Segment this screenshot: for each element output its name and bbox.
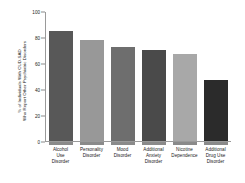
x-axis-tick-mark: [204, 142, 228, 145]
bar-series: [46, 12, 231, 141]
x-axis-tick-mark: [49, 142, 73, 145]
y-axis-tick-label: 20: [35, 114, 40, 119]
y-axis-tick-mark: [41, 12, 45, 13]
x-axis-tick-mark: [111, 142, 135, 145]
y-axis-tick-label: 0: [37, 140, 40, 145]
bar-chart-figure: % of Individuals With CUD-SAD Who Report…: [0, 0, 245, 183]
x-axis-category-label-line: Disorder: [201, 159, 231, 165]
x-axis-category-label-line: Disorder: [46, 159, 76, 165]
x-axis-tick-marks: [45, 142, 231, 146]
x-axis-tick-mark: [142, 142, 166, 145]
x-axis-category-label: PersonalityDisorder: [77, 147, 107, 179]
y-axis-tick-label: 60: [35, 62, 40, 67]
y-axis-tick-mark: [41, 116, 45, 117]
y-axis-tick-label: 40: [35, 88, 40, 93]
x-axis-tick-mark: [173, 142, 197, 145]
x-axis-category-label-line: Personality: [77, 147, 107, 153]
bar: [142, 50, 166, 141]
x-axis-category-label: AlcoholUseDisorder: [46, 147, 76, 179]
bar: [111, 47, 135, 141]
x-axis-category-labels: AlcoholUseDisorderPersonalityDisorderMoo…: [45, 147, 231, 179]
bar: [173, 54, 197, 141]
x-axis-category-label: MoodDisorder: [108, 147, 138, 179]
x-axis-category-label-line: Disorder: [108, 153, 138, 159]
x-axis-category-label-line: Disorder: [139, 159, 169, 165]
y-axis-tick-label: 100: [32, 10, 40, 15]
x-axis-category-label: AdditionalAnxietyDisorder: [139, 147, 169, 179]
y-axis-title-line2: Who Report Other Psychiatric Disorders: [22, 41, 27, 121]
plot-area: [45, 12, 231, 142]
bar: [49, 31, 73, 142]
y-axis-tick-mark: [41, 38, 45, 39]
x-axis-tick-mark: [80, 142, 104, 145]
x-axis-category-label-line: Disorder: [77, 153, 107, 159]
y-axis-tick-mark: [41, 90, 45, 91]
x-axis-category-label: NicotineDependence: [170, 147, 200, 179]
x-axis-category-label: AdditionalDrug UseDisorder: [201, 147, 231, 179]
bar: [204, 80, 228, 141]
y-axis-title-line1: % of Individuals With CUD-SAD: [17, 49, 22, 112]
y-axis-tick-labels: 020406080100: [28, 12, 40, 142]
bar: [80, 40, 104, 141]
y-axis-tick-mark: [41, 142, 45, 143]
y-axis-tick-label: 80: [35, 36, 40, 41]
x-axis-category-label-line: Dependence: [170, 153, 200, 159]
y-axis-tick-mark: [41, 64, 45, 65]
